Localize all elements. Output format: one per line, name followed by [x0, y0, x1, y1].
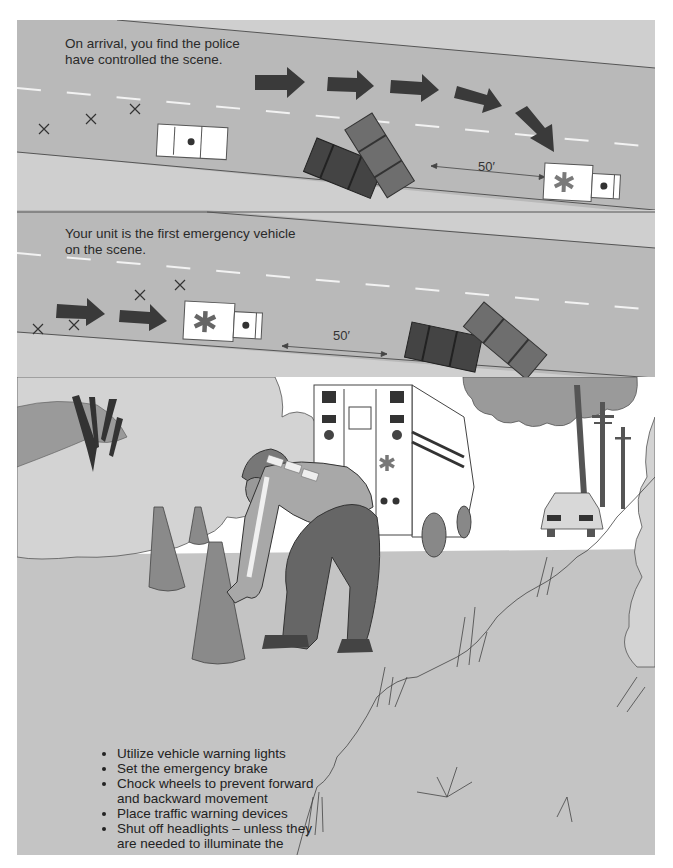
- police-car: [156, 124, 228, 160]
- checklist-item: Shut off headlights – unless they are ne…: [117, 821, 317, 855]
- checklist-item: Set the emergency brake: [117, 761, 317, 776]
- checklist-item: Utilize vehicle warning lights: [117, 746, 317, 761]
- distance-label-1: 50′: [478, 159, 495, 174]
- panel-2-caption: Your unit is the first emergency vehicle…: [65, 226, 305, 258]
- diagram-panel-first-on-scene: Your unit is the first emergency vehicle…: [17, 210, 655, 377]
- checklist-item: Place traffic warning devices: [117, 806, 317, 821]
- checklist-item: Chock wheels to prevent forward and back…: [117, 776, 317, 806]
- panel-1-caption: On arrival, you find the police have con…: [65, 36, 265, 68]
- scene-illustration-panel: Utilize vehicle warning lights Set the e…: [17, 377, 655, 855]
- distance-label-2: 50′: [333, 328, 350, 343]
- diagram-panel-police-controlled: On arrival, you find the police have con…: [17, 20, 655, 210]
- safety-checklist: Utilize vehicle warning lights Set the e…: [101, 746, 317, 855]
